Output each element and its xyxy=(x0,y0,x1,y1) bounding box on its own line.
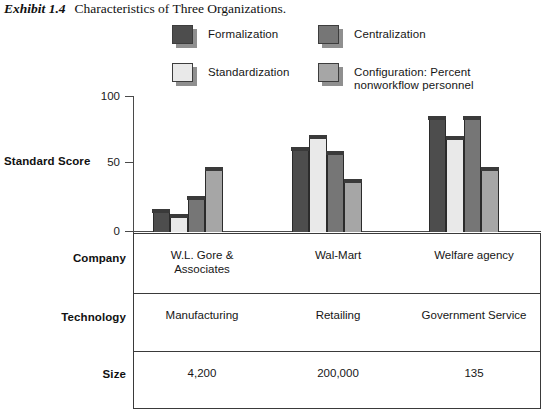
bar-centralization-group-2 xyxy=(327,151,345,232)
bar-top-cap xyxy=(205,167,223,171)
bar-formalization-group-2 xyxy=(292,147,310,232)
table-row: 4,200 200,000 135 xyxy=(134,351,540,408)
table-cell: 200,000 xyxy=(270,352,406,408)
bar-top-cap xyxy=(463,116,481,120)
bar-top-cap xyxy=(428,116,446,120)
exhibit-caption: Characteristics of Three Organizations. xyxy=(75,1,287,16)
chart-legend: Formalization Centralization Standardiza… xyxy=(0,22,551,88)
bar-top-cap xyxy=(170,214,188,218)
table-cell: Government Service xyxy=(406,294,542,351)
bar-centralization-group-1 xyxy=(188,196,206,232)
table-cell: 4,200 xyxy=(134,352,270,408)
row-label-company: Company xyxy=(0,252,126,264)
table-cell: Retailing xyxy=(270,294,406,351)
bar-top-cap xyxy=(344,179,362,183)
row-label-size: Size xyxy=(0,368,126,380)
legend-item-formalization: Formalization xyxy=(172,25,278,49)
bar-standardization-group-2 xyxy=(309,135,327,232)
exhibit-figure: Exhibit 1.4Characteristics of Three Orga… xyxy=(0,0,551,414)
row-label-technology: Technology xyxy=(0,311,126,323)
bar-top-cap xyxy=(446,136,464,140)
bar-configuration-group-1 xyxy=(205,167,223,232)
bar-series-container xyxy=(0,88,551,236)
legend-label-configuration: Configuration: Percent nonworkflow perso… xyxy=(354,63,474,91)
legend-swatch-formalization xyxy=(172,25,199,49)
bar-standardization-group-1 xyxy=(170,214,188,232)
legend-label-formalization: Formalization xyxy=(208,25,278,41)
legend-label-standardization: Standardization xyxy=(208,63,289,79)
table-cell: Welfare agency xyxy=(406,234,542,293)
legend-swatch-fill-icon xyxy=(172,63,193,82)
table-row: W.L. Gore & Associates Wal-Mart Welfare … xyxy=(134,234,540,293)
bar-top-cap xyxy=(187,196,205,200)
legend-swatch-standardization xyxy=(172,63,199,87)
bar-formalization-group-3 xyxy=(429,116,447,232)
legend-swatch-fill-icon xyxy=(172,25,193,44)
legend-swatch-configuration xyxy=(318,63,345,87)
bar-formalization-group-1 xyxy=(153,209,171,232)
bar-chart-plot: Standard Score 100 50 0 xyxy=(0,88,551,236)
table-cell: W.L. Gore & Associates xyxy=(134,234,270,293)
table-row: Manufacturing Retailing Government Servi… xyxy=(134,293,540,351)
bar-top-cap xyxy=(309,135,327,139)
legend-swatch-fill-icon xyxy=(318,25,339,44)
table-cell: Manufacturing xyxy=(134,294,270,351)
legend-item-centralization: Centralization xyxy=(318,25,426,49)
legend-swatch-fill-icon xyxy=(318,63,339,82)
legend-item-standardization: Standardization xyxy=(172,63,289,87)
exhibit-title: Exhibit 1.4Characteristics of Three Orga… xyxy=(4,1,286,17)
bar-top-cap xyxy=(152,209,170,213)
table-cell: 135 xyxy=(406,352,542,408)
table-cell: Wal-Mart xyxy=(270,234,406,293)
legend-label-centralization: Centralization xyxy=(354,25,426,41)
bar-top-cap xyxy=(291,147,309,151)
exhibit-number: Exhibit 1.4 xyxy=(4,1,66,16)
bar-configuration-group-3 xyxy=(481,167,499,232)
bar-top-cap xyxy=(326,151,344,155)
characteristics-table: W.L. Gore & Associates Wal-Mart Welfare … xyxy=(133,233,541,409)
bar-standardization-group-3 xyxy=(446,136,464,232)
legend-item-configuration: Configuration: Percent nonworkflow perso… xyxy=(318,63,474,91)
bar-top-cap xyxy=(481,167,499,171)
legend-swatch-centralization xyxy=(318,25,345,49)
bar-centralization-group-3 xyxy=(464,116,482,232)
bar-configuration-group-2 xyxy=(344,179,362,232)
